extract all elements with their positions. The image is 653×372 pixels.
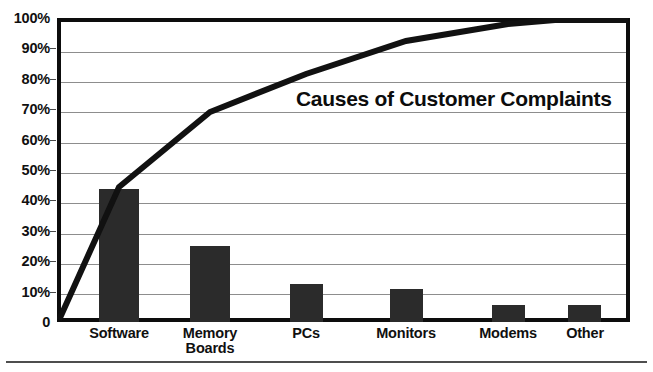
- chart-title: Causes of Customer Complaints: [296, 87, 612, 111]
- y-axis-label: 80%: [22, 71, 50, 87]
- y-axis-tick: [50, 200, 56, 201]
- y-axis-tick: [50, 109, 56, 110]
- y-axis-tick: [50, 48, 56, 49]
- y-axis-tick: [50, 140, 56, 141]
- bar-pcs: [290, 284, 323, 322]
- y-axis-label: 60%: [22, 132, 50, 148]
- y-axis-label: 10%: [22, 284, 50, 300]
- x-axis-label-other: Other: [566, 326, 604, 341]
- y-axis-tick: [50, 231, 56, 232]
- x-axis-label-memory-boards: Memory Boards: [183, 326, 237, 356]
- bar-software: [99, 189, 139, 322]
- x-axis-label-monitors: Monitors: [376, 326, 436, 341]
- y-axis-label: 40%: [22, 192, 50, 208]
- y-axis: 100% 90% 80% 70% 60% 50% 40% 30% 20% 10%…: [0, 0, 54, 372]
- y-axis-tick: [50, 292, 56, 293]
- y-axis-label: 30%: [22, 223, 50, 239]
- y-axis-label: 50%: [22, 162, 50, 178]
- bar-monitors: [390, 289, 423, 322]
- bar-other: [568, 305, 601, 322]
- y-axis-tick: [50, 261, 56, 262]
- bar-memory-boards: [190, 246, 230, 322]
- y-axis-label: 70%: [22, 101, 50, 117]
- y-axis-label: 20%: [22, 253, 50, 269]
- bar-modems: [492, 305, 525, 322]
- pareto-chart: 100% 90% 80% 70% 60% 50% 40% 30% 20% 10%…: [0, 0, 653, 372]
- x-axis: Software Memory Boards PCs Monitors Mode…: [0, 326, 653, 362]
- x-axis-label-software: Software: [89, 326, 149, 341]
- bottom-divider: [6, 361, 647, 363]
- x-axis-label-modems: Modems: [479, 326, 537, 341]
- y-axis-label: 90%: [22, 40, 50, 56]
- x-axis-label-pcs: PCs: [292, 326, 320, 341]
- y-axis-label: 100%: [14, 10, 50, 26]
- bar-series: [57, 18, 630, 322]
- y-axis-tick: [50, 79, 56, 80]
- y-axis-tick: [50, 170, 56, 171]
